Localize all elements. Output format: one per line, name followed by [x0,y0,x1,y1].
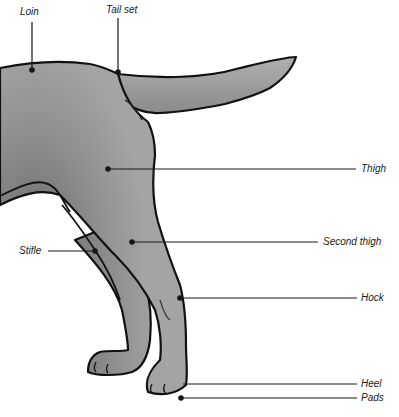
label-pads: Pads [361,392,384,404]
label-stifle: Stifle [19,245,41,257]
tail-set-point [116,70,120,74]
stifle-point [93,249,97,253]
dog-illustration [0,0,399,417]
label-tail-set: Tail set [106,4,137,16]
second-thigh-point [130,240,134,244]
tail [118,57,296,113]
label-hock: Hock [361,292,384,304]
thigh-point [106,167,110,171]
label-loin: Loin [20,6,39,18]
label-second-thigh: Second thigh [323,236,381,248]
label-heel: Heel [361,378,382,390]
hock-point [178,296,182,300]
label-thigh: Thigh [361,163,386,175]
loin-point [30,68,34,72]
dog-hindquarters-diagram: Loin Tail set Thigh Stifle Second thigh … [0,0,399,417]
pads-point [179,396,183,400]
